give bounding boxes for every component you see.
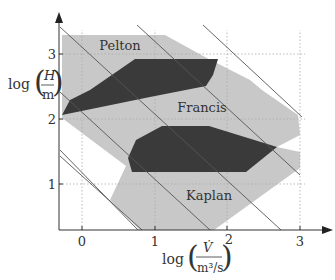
y-tick-3: 3 (48, 47, 56, 62)
turbine-chart: 0 1 2 3 3 2 1 Pelton Francis Kaplan log … (0, 0, 335, 280)
y-axis-arrow-icon (55, 12, 63, 23)
svg-text:m³/s: m³/s (197, 261, 223, 275)
svg-text:V̇: V̇ (203, 240, 214, 255)
y-axis-label: log ( H m ) (8, 64, 64, 102)
svg-text:log: log (8, 76, 30, 92)
y-tick-2: 2 (48, 112, 56, 127)
pelton-label: Pelton (99, 38, 141, 53)
x-tick-3: 3 (296, 234, 304, 249)
svg-text:): ) (52, 64, 64, 99)
svg-text:log: log (162, 251, 184, 267)
y-tick-1: 1 (48, 177, 56, 192)
x-axis-label: log ( V̇ m³/s ) (162, 239, 233, 275)
kaplan-label: Kaplan (186, 188, 233, 203)
x-axis-arrow-icon (322, 226, 333, 234)
francis-label: Francis (177, 100, 226, 115)
x-tick-0: 0 (78, 234, 86, 249)
x-tick-1: 1 (151, 234, 159, 249)
svg-text:): ) (221, 239, 233, 274)
